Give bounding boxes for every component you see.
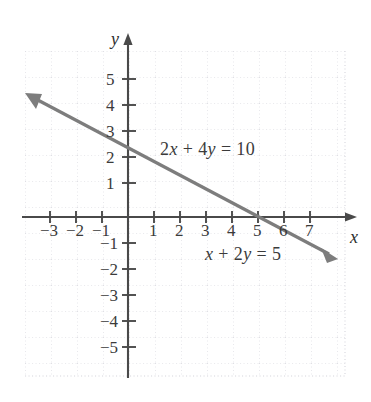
- y-tick-label--1: −1: [100, 235, 118, 252]
- equation-label-bottom: x + 2y = 5: [205, 245, 281, 263]
- x-tick-label-5: 5: [253, 222, 262, 239]
- eq-top-equals: =: [221, 139, 232, 159]
- x-tick-label-1: 1: [149, 222, 158, 239]
- x-tick-label--2: −2: [66, 222, 84, 239]
- x-tick-label-2: 2: [175, 222, 184, 239]
- y-tick-label--3: −3: [100, 287, 118, 304]
- eq-bottom-equals: =: [256, 244, 267, 264]
- y-tick-label-5: 5: [106, 71, 115, 88]
- eq-bottom-var-y: y: [243, 244, 251, 264]
- y-tick-label-2: 2: [106, 149, 115, 166]
- x-axis-arrow-icon: [345, 212, 357, 221]
- x-tick-label--3: −3: [40, 222, 58, 239]
- y-tick-label-1: 1: [106, 175, 115, 192]
- x-axis-label: x: [350, 228, 358, 246]
- equation-label-top: 2x + 4y = 10: [160, 140, 255, 158]
- coordinate-plane: [0, 0, 371, 402]
- y-tick-label--2: −2: [100, 261, 118, 278]
- grid-background: [25, 51, 345, 376]
- graph-figure: y x −3 −2 −1 1 2 3 4 5 6 7 5 4 3 2 1 −1 …: [0, 0, 371, 402]
- eq-top-var-x: x: [169, 139, 177, 159]
- eq-top-var-y: y: [208, 139, 216, 159]
- x-tick-label-6: 6: [279, 222, 288, 239]
- eq-top-plus: +: [183, 139, 194, 159]
- x-tick-label-7: 7: [305, 222, 314, 239]
- eq-bottom-plus: +: [218, 244, 229, 264]
- x-tick-label-4: 4: [227, 222, 236, 239]
- y-tick-label-3: 3: [106, 123, 115, 140]
- x-tick-label-3: 3: [201, 222, 210, 239]
- eq-top-coeff-x: 2: [160, 139, 169, 159]
- eq-top-rhs: 10: [236, 139, 255, 159]
- y-axis-label: y: [111, 30, 119, 48]
- eq-bottom-rhs: 5: [272, 244, 281, 264]
- y-tick-label--5: −5: [100, 339, 118, 356]
- eq-top-coeff-y: 4: [198, 139, 207, 159]
- y-tick-label--4: −4: [100, 313, 118, 330]
- eq-bottom-var-x: x: [205, 244, 213, 264]
- eq-bottom-coeff-y: 2: [234, 244, 243, 264]
- y-axis-arrow-icon: [123, 33, 132, 45]
- y-tick-label-4: 4: [106, 97, 115, 114]
